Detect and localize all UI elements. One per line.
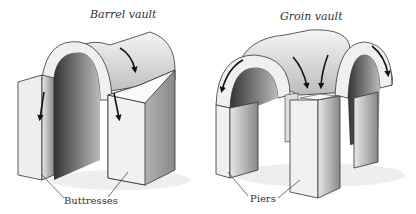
vault-diagram-svg xyxy=(0,0,416,214)
barrel-vault-title: Barrel vault xyxy=(90,8,156,21)
buttresses-label: Buttresses xyxy=(64,195,118,206)
groin-vault-title: Groin vault xyxy=(280,10,343,23)
groin-vault xyxy=(216,30,405,198)
barrel-vault xyxy=(18,32,190,198)
piers-label: Piers xyxy=(250,193,276,204)
